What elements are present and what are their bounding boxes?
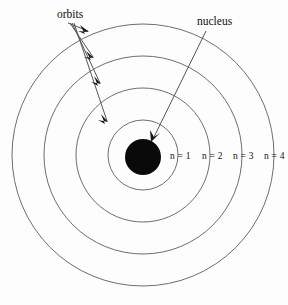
nucleus-label: nucleus xyxy=(197,16,232,28)
nucleus-disc xyxy=(125,139,161,175)
orbits-label: orbits xyxy=(57,9,83,21)
shell-label-n3: n = 3 xyxy=(233,152,254,162)
orbits-leader-line-4 xyxy=(74,23,107,121)
shell-label-n2: n = 2 xyxy=(202,152,223,162)
nucleus-leader-line xyxy=(153,31,206,139)
shell-label-n4: n = 4 xyxy=(264,152,285,162)
orbits-arrow-head-1 xyxy=(78,25,89,34)
shell-label-n1: n = 1 xyxy=(170,152,191,162)
bohr-model-diagram: orbits nucleus n = 1 n = 2 n = 3 n = 4 xyxy=(0,0,288,305)
